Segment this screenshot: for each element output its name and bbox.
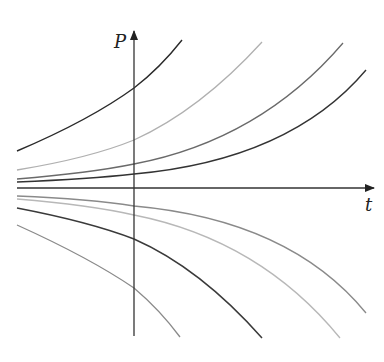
curve-lower-3 (17, 208, 262, 338)
t-axis-label: t (365, 194, 373, 215)
solution-curves-diagram: P t (0, 0, 384, 362)
curve-lower-1 (17, 196, 366, 313)
p-axis-label: P (113, 31, 127, 52)
curve-upper-2 (17, 42, 262, 170)
curve-upper-3 (17, 43, 343, 179)
curve-lower-4 (17, 225, 180, 337)
curve-lower-2 (17, 199, 340, 338)
curve-upper-1 (17, 40, 182, 151)
